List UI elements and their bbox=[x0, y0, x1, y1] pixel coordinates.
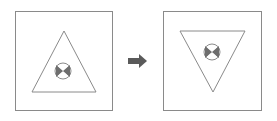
balance-symbol-icon bbox=[55, 63, 71, 79]
right-arrow-icon bbox=[128, 54, 147, 68]
panel-before bbox=[16, 12, 113, 111]
frame-after bbox=[164, 12, 262, 111]
upright-triangle bbox=[32, 31, 96, 92]
balance-symbol-icon bbox=[204, 44, 220, 60]
panel-after bbox=[164, 12, 262, 111]
inverted-triangle bbox=[180, 31, 245, 92]
transformation-diagram bbox=[0, 0, 277, 121]
frame-before bbox=[16, 12, 113, 111]
